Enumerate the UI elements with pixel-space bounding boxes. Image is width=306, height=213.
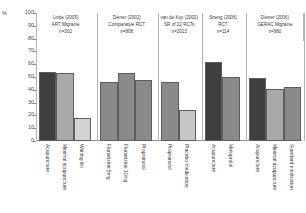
migraine-response-bar-chart: % 0102030405060708090100 Linde (2005)ART… [0, 0, 306, 213]
y-axis-tick-label: 10 [14, 125, 34, 131]
group-separator [246, 13, 247, 141]
y-axis-tick-mark [33, 141, 36, 142]
x-axis-category-label: Waiting list [79, 144, 84, 168]
y-axis-unit-label: % [2, 10, 7, 16]
x-axis-category-labels: AcupunctureMinimal acupunctureWaiting li… [36, 143, 302, 213]
y-axis-tick-label: 0 [14, 138, 34, 144]
bar [118, 73, 135, 141]
y-axis-tick-label: 80 [14, 36, 34, 42]
bar [39, 72, 56, 141]
x-axis-category-label: Acupuncture [211, 144, 216, 172]
y-axis-tick-label: 60 [14, 61, 34, 67]
bar [161, 82, 178, 141]
x-axis-category-label: Propranolol [141, 144, 146, 170]
x-axis-category-label: Minimal acupuncture [62, 144, 67, 190]
bar [222, 77, 239, 141]
bar [100, 82, 117, 141]
y-axis-tick-label: 20 [14, 113, 34, 119]
x-axis-category-label: Propranolol [167, 144, 172, 170]
bar [249, 78, 266, 141]
bar [179, 110, 196, 141]
bar [205, 62, 222, 141]
y-axis-tick-label: 100 [14, 10, 34, 16]
y-axis-tick-label: 40 [14, 87, 34, 93]
x-axis-category-label: Acupuncture [255, 144, 260, 172]
y-axis: % 0102030405060708090100 [0, 0, 34, 213]
bar [56, 73, 73, 141]
x-axis-category-label: Minimal acupuncture [272, 144, 277, 190]
group-separator [202, 13, 203, 141]
x-axis-category-label: Flunarizine 5mg [106, 144, 111, 180]
group-separator [304, 13, 305, 141]
group-separator [97, 13, 98, 141]
y-axis-tick-label: 30 [14, 100, 34, 106]
bar [74, 118, 91, 141]
y-axis-tick-label: 70 [14, 49, 34, 55]
y-axis-tick-label: 90 [14, 23, 34, 29]
x-axis-category-label: Placebo medication [184, 144, 189, 188]
bar [266, 89, 283, 141]
bar [284, 87, 301, 141]
bar [135, 80, 152, 141]
x-axis-category-label: Standard medication [289, 144, 294, 190]
x-axis-category-label: Flunarizine 10mg [123, 144, 128, 182]
x-axis-category-label: Acupuncture [45, 144, 50, 172]
y-axis-tick-label: 50 [14, 74, 34, 80]
group-separator [36, 13, 37, 141]
plot-area [36, 13, 302, 141]
x-axis-category-label: Metoprolol [228, 144, 233, 167]
group-separator [158, 13, 159, 141]
